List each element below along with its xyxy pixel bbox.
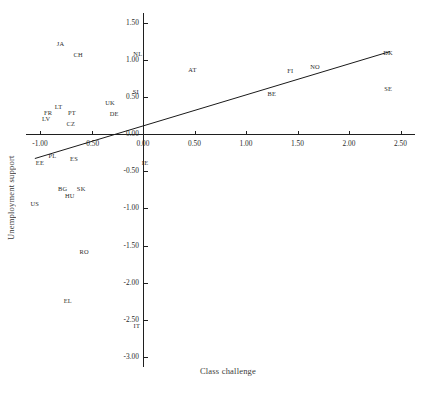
data-point-label: DK <box>383 49 393 56</box>
y-axis-tick-label: -1.50 <box>99 241 139 250</box>
data-point-label: RO <box>80 248 89 255</box>
x-axis-tick-label: 2.00 <box>327 139 371 148</box>
x-axis-tick-label: 1.50 <box>276 139 320 148</box>
x-axis-tick <box>92 131 93 135</box>
x-axis-tick <box>195 131 196 135</box>
y-axis-tick-label: 0.00 <box>99 129 139 138</box>
data-point-label: LT <box>55 102 63 109</box>
data-point-label: LV <box>42 115 50 122</box>
y-axis-tick-label: -0.50 <box>99 166 139 175</box>
y-axis-tick <box>143 97 148 98</box>
data-point-label: DE <box>110 110 119 117</box>
x-axis-tick <box>246 131 247 135</box>
x-axis-tick <box>401 131 402 135</box>
data-point-label: PT <box>68 109 76 116</box>
y-axis-tick <box>143 208 148 209</box>
x-axis-tick-label: 1.00 <box>224 139 268 148</box>
data-point-label: PL <box>48 151 56 158</box>
data-point-label: IT <box>134 322 141 329</box>
x-axis-title: Class challenge <box>163 366 293 376</box>
y-axis-tick-label: -3.00 <box>99 352 139 361</box>
y-axis-tick <box>143 320 148 321</box>
x-axis-tick <box>298 131 299 135</box>
y-axis-tick <box>143 357 148 358</box>
data-point-label: IE <box>142 159 149 166</box>
data-point-label: FI <box>287 67 293 74</box>
x-axis-tick <box>40 131 41 135</box>
y-axis-line <box>143 13 144 368</box>
data-point-label: US <box>31 200 40 207</box>
x-axis-line <box>26 134 415 135</box>
y-axis-tick-label: -1.00 <box>99 203 139 212</box>
y-axis-tick <box>143 60 148 61</box>
x-axis-tick-label: 2.50 <box>379 139 423 148</box>
data-point-label: HU <box>65 191 75 198</box>
x-axis-tick-label: 0.00 <box>121 139 165 148</box>
data-point-label: CH <box>73 50 82 57</box>
x-axis-tick-label: -0.50 <box>70 139 114 148</box>
data-point-label: SK <box>77 185 86 192</box>
x-axis-tick <box>349 131 350 135</box>
data-point-label: SE <box>384 84 392 91</box>
data-point-label: AT <box>188 66 196 73</box>
y-axis-tick-label: 1.50 <box>99 18 139 27</box>
data-point-label: BE <box>267 90 276 97</box>
data-point-label: JA <box>57 40 65 47</box>
data-point-label: NL <box>133 49 142 56</box>
x-axis-tick-label: 0.50 <box>173 139 217 148</box>
y-axis-tick <box>143 23 148 24</box>
data-point-label: SI <box>133 87 139 94</box>
data-point-label: NO <box>310 63 320 70</box>
data-point-label: EE <box>36 158 44 165</box>
y-axis-tick <box>143 171 148 172</box>
regression-line <box>0 0 435 398</box>
data-point-label: UK <box>105 99 115 106</box>
data-point-label: ES <box>70 154 78 161</box>
scatter-plot-figure: Unemployment support Class challenge -1.… <box>0 0 435 398</box>
y-axis-title: Unemployment support <box>4 128 18 268</box>
data-point-label: EL <box>64 296 72 303</box>
y-axis-tick <box>143 134 148 135</box>
y-axis-tick <box>143 246 148 247</box>
y-axis-tick-label: -2.00 <box>99 278 139 287</box>
x-axis-tick-label: -1.00 <box>18 139 62 148</box>
y-axis-tick <box>143 283 148 284</box>
data-point-label: CZ <box>67 119 76 126</box>
